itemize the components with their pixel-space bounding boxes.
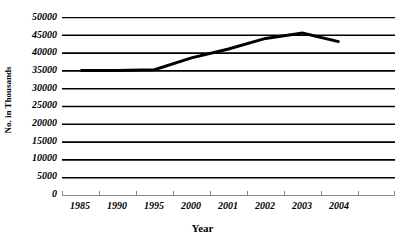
x-tick-label: 2004 [309,200,369,212]
y-tick-label: 50000 [11,12,57,22]
line-chart: No. in Thousands 50000 45000 40000 35000… [0,0,405,247]
x-axis-tick-labels: 1985 1990 1995 2000 2001 2002 2003 2004 [62,200,395,218]
y-tick-label: 35000 [11,65,57,75]
x-axis-line [62,191,395,196]
data-series-line [81,33,340,70]
x-axis-title: Year [0,222,405,234]
y-tick-label: 10000 [11,153,57,163]
y-tick-label: 15000 [11,136,57,146]
plot-area [62,17,395,195]
y-tick-label: 25000 [11,100,57,110]
y-tick-label: 45000 [11,30,57,40]
y-tick-label: 5000 [11,171,57,181]
y-tick-label: 30000 [11,83,57,93]
y-tick-label: 0 [11,189,57,199]
y-tick-label: 40000 [11,47,57,57]
gridlines [62,18,395,178]
y-tick-label: 20000 [11,118,57,128]
